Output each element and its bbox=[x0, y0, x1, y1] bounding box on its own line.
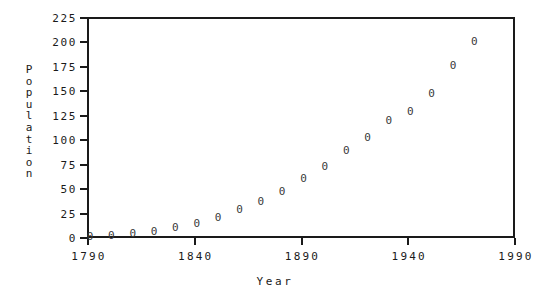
y-axis-tick-label: 125 bbox=[52, 110, 77, 121]
y-axis-tick-mark bbox=[80, 188, 87, 190]
x-axis-tick-mark bbox=[407, 238, 409, 245]
y-axis-title: Population bbox=[22, 64, 36, 180]
data-point: 0 bbox=[151, 225, 158, 236]
y-axis-tick-label: 225 bbox=[52, 13, 77, 24]
y-axis-tick-label: 25 bbox=[61, 208, 77, 219]
data-point: 0 bbox=[343, 145, 350, 156]
plot-area: 0000000000000000000 bbox=[87, 17, 515, 238]
y-axis-tick-mark bbox=[80, 17, 87, 19]
data-point: 0 bbox=[428, 87, 435, 98]
x-axis-tick-label: 1990 bbox=[496, 250, 533, 263]
data-point: 0 bbox=[450, 59, 457, 70]
data-point: 0 bbox=[322, 160, 329, 171]
y-axis-tick-label: 200 bbox=[52, 37, 77, 48]
y-axis-tick-label: 0 bbox=[69, 233, 77, 244]
y-axis-tick-label: 75 bbox=[61, 159, 77, 170]
data-point: 0 bbox=[108, 229, 115, 240]
y-axis-tick-mark bbox=[80, 90, 87, 92]
x-axis-tick-mark bbox=[301, 238, 303, 245]
y-axis-title-letter: P bbox=[22, 64, 36, 76]
x-axis-tick-mark bbox=[194, 238, 196, 245]
y-axis-tick-label: 50 bbox=[61, 184, 77, 195]
data-point: 0 bbox=[193, 218, 200, 229]
y-axis-tick-mark bbox=[80, 115, 87, 117]
data-point: 0 bbox=[300, 173, 307, 184]
data-point: 0 bbox=[87, 231, 94, 242]
data-point: 0 bbox=[236, 204, 243, 215]
x-axis-title: Year bbox=[0, 275, 550, 288]
data-point: 0 bbox=[364, 131, 371, 142]
y-axis-title-letter: a bbox=[22, 122, 36, 134]
y-axis-tick-label: 150 bbox=[52, 86, 77, 97]
y-axis-tick-mark bbox=[80, 164, 87, 166]
y-axis-tick-label: 175 bbox=[52, 61, 77, 72]
x-axis-tick-mark bbox=[514, 238, 516, 245]
y-axis-title-letter: n bbox=[22, 168, 36, 180]
y-axis-tick-mark bbox=[80, 41, 87, 43]
data-point: 0 bbox=[172, 222, 179, 233]
data-point: 0 bbox=[386, 114, 393, 125]
data-point: 0 bbox=[257, 196, 264, 207]
data-point: 0 bbox=[129, 227, 136, 238]
data-series-population: 0000000000000000000 bbox=[89, 19, 513, 236]
x-axis-tick-label: 1890 bbox=[283, 250, 320, 263]
data-point: 0 bbox=[279, 185, 286, 196]
population-scatter-chart: Population 0255075100125150175200225 179… bbox=[0, 0, 550, 303]
x-axis-tick-label: 1790 bbox=[69, 250, 106, 263]
y-axis-tick-mark bbox=[80, 213, 87, 215]
y-axis-tick-mark bbox=[80, 66, 87, 68]
x-axis-tick-label: 1940 bbox=[390, 250, 427, 263]
y-axis-tick-label: 100 bbox=[52, 135, 77, 146]
data-point: 0 bbox=[407, 106, 414, 117]
y-axis-title-letter: i bbox=[22, 145, 36, 157]
data-point: 0 bbox=[215, 212, 222, 223]
data-point: 0 bbox=[471, 36, 478, 47]
x-axis-tick-label: 1840 bbox=[176, 250, 213, 263]
y-axis-tick-mark bbox=[80, 139, 87, 141]
